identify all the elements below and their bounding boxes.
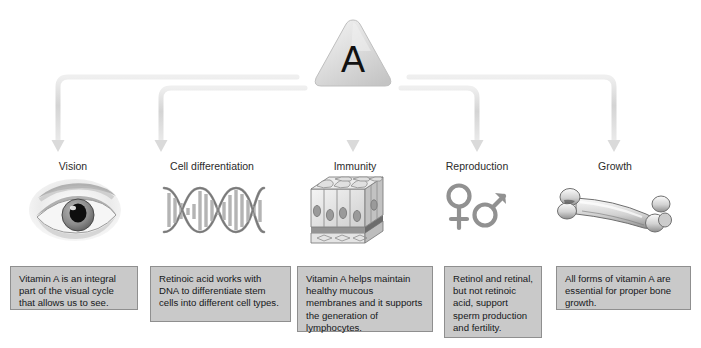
caption-growth: All forms of vitamin A are essential for… (556, 266, 691, 310)
eye-icon (28, 176, 122, 242)
gender-symbols-icon (444, 180, 510, 236)
connector-cell-differentiation (155, 88, 306, 152)
caption-immunity: Vitamin A helps maintain healthy mucous … (297, 266, 433, 332)
caption-reproduction: Retinol and retinal, but not retinoic ac… (444, 266, 542, 338)
dna-helix-icon (160, 182, 266, 238)
vitamin-a-letter: A (311, 42, 395, 78)
branch-label-vision: Vision (8, 160, 138, 172)
mars-symbol-icon (475, 196, 505, 226)
vitamin-a-node: A (311, 16, 395, 92)
connector-reproduction (401, 88, 484, 152)
vitamin-a-functions-diagram: A Vision Vit (0, 0, 701, 348)
epithelial-tissue-icon (305, 175, 387, 251)
connector-vision (52, 77, 298, 152)
connector-immunity (347, 98, 360, 152)
branch-label-cell-differentiation: Cell differentiation (142, 160, 282, 172)
branch-label-immunity: Immunity (290, 160, 420, 172)
bone-icon (556, 186, 672, 238)
branch-label-growth: Growth (545, 160, 685, 172)
branch-label-reproduction: Reproduction (412, 160, 542, 172)
connector-growth (409, 77, 621, 152)
caption-cell-differentiation: Retinoic acid works with DNA to differen… (150, 266, 291, 322)
caption-vision: Vitamin A is an integral part of the vis… (10, 266, 138, 310)
venus-symbol-icon (449, 186, 470, 229)
